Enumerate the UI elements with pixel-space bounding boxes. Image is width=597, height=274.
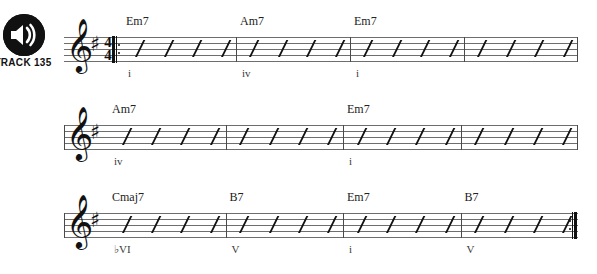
barline <box>464 37 465 62</box>
slash-notehead <box>383 128 391 144</box>
slash-notehead <box>236 216 244 232</box>
treble-clef-icon: 𝄞 <box>66 110 93 156</box>
slash-notehead <box>501 216 509 232</box>
slash-notehead <box>295 216 303 232</box>
barline <box>343 213 344 238</box>
staff-line <box>64 55 578 56</box>
barline <box>64 213 65 238</box>
repeat-end-barline <box>569 212 578 239</box>
roman-numeral: i <box>356 67 359 79</box>
staff-line <box>64 125 578 126</box>
slash-notehead <box>324 216 332 232</box>
slash-notehead <box>266 128 274 144</box>
slash-notehead <box>148 128 156 144</box>
chord-symbol: Em7 <box>126 14 149 29</box>
slash-notehead <box>530 128 538 144</box>
roman-numeral: i <box>349 155 352 167</box>
chord-symbol: Am7 <box>240 14 264 29</box>
slash-notehead <box>354 128 362 144</box>
slash-notehead <box>360 40 368 56</box>
key-signature-sharp-icon: ♯ <box>90 210 100 231</box>
slash-notehead <box>412 216 420 232</box>
slash-notehead <box>560 40 568 56</box>
key-signature-sharp-icon: ♯ <box>90 122 100 143</box>
slash-notehead <box>207 128 215 144</box>
repeat-start-barline <box>112 36 120 63</box>
chord-symbol: B7 <box>230 190 244 205</box>
chord-symbol: B7 <box>465 190 479 205</box>
staff-lines <box>64 37 578 61</box>
roman-numeral: iv <box>242 67 251 79</box>
chord-symbol: Em7 <box>347 190 370 205</box>
roman-numeral: i <box>128 67 131 79</box>
slash-notehead <box>389 40 397 56</box>
slash-notehead <box>417 40 425 56</box>
barline <box>226 125 227 150</box>
chord-symbol: Em7 <box>354 14 377 29</box>
barline <box>343 125 344 150</box>
slash-notehead <box>559 216 567 232</box>
slash-notehead <box>446 40 454 56</box>
slash-notehead <box>207 216 215 232</box>
slash-notehead <box>119 128 127 144</box>
slash-notehead <box>177 128 185 144</box>
chord-symbol: Am7 <box>112 102 136 117</box>
staff-line <box>64 149 578 150</box>
slash-notehead <box>442 216 450 232</box>
track-number-label: TRACK 135 <box>0 57 54 68</box>
slash-notehead <box>161 40 169 56</box>
treble-clef-icon: 𝄞 <box>66 198 93 244</box>
slash-notehead <box>530 216 538 232</box>
slash-notehead <box>189 40 197 56</box>
slash-notehead <box>442 128 450 144</box>
staff-line <box>64 237 578 238</box>
chord-symbol: Cmaj7 <box>112 190 144 205</box>
roman-numeral: iv <box>114 155 123 167</box>
roman-numeral: V <box>232 243 240 255</box>
roman-numeral: i <box>349 243 352 255</box>
slash-notehead <box>236 128 244 144</box>
slash-notehead <box>412 128 420 144</box>
staff-line <box>64 213 578 214</box>
staff-line <box>64 49 578 50</box>
staff-system-3: 𝄞 ♯ Cmaj7♭VIB7VEm7iB7V <box>64 186 578 272</box>
slash-notehead <box>559 128 567 144</box>
slash-notehead <box>383 216 391 232</box>
staff-line <box>64 61 578 62</box>
slash-notehead <box>332 40 340 56</box>
treble-clef-icon: 𝄞 <box>66 22 93 68</box>
roman-numeral: ♭VI <box>114 243 131 256</box>
slash-notehead <box>132 40 140 56</box>
roman-numeral: V <box>467 243 475 255</box>
slash-notehead <box>246 40 254 56</box>
slash-notehead <box>531 40 539 56</box>
slash-notehead <box>501 128 509 144</box>
slash-notehead <box>119 216 127 232</box>
key-signature-sharp-icon: ♯ <box>90 34 100 55</box>
slash-notehead <box>471 216 479 232</box>
speaker-icon[interactable] <box>3 14 45 56</box>
barline <box>577 37 578 62</box>
staff-system-1: 𝄞 ♯ 4 4 Em7iAm7ivEm7i <box>64 10 578 96</box>
slash-notehead <box>148 216 156 232</box>
staff-line <box>64 37 578 38</box>
barline <box>461 213 462 238</box>
slash-notehead <box>503 40 511 56</box>
barline <box>577 125 578 150</box>
slash-notehead <box>275 40 283 56</box>
slash-notehead <box>324 128 332 144</box>
slash-notehead <box>218 40 226 56</box>
track-badge: TRACK 135 <box>0 14 54 70</box>
slash-notehead <box>303 40 311 56</box>
slash-notehead <box>474 40 482 56</box>
slash-notehead <box>354 216 362 232</box>
slash-notehead <box>266 216 274 232</box>
staff-system-2: 𝄞 ♯ Am7ivEm7i <box>64 98 578 184</box>
slash-notehead <box>471 128 479 144</box>
barline <box>64 125 65 150</box>
chord-symbol: Em7 <box>347 102 370 117</box>
slash-notehead <box>177 216 185 232</box>
slash-notehead <box>295 128 303 144</box>
barline <box>226 213 227 238</box>
barline <box>461 125 462 150</box>
